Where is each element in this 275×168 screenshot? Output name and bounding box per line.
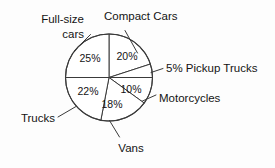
callout-label-motorcycles: Motorcycles: [159, 92, 221, 104]
leader-line-pickup-trucks: [151, 69, 163, 73]
leader-line-trucks: [58, 107, 76, 118]
pie-chart-canvas: 20% 10% 18% 22% 25% Full-size cars Compa…: [0, 0, 275, 168]
slice-value-trucks: 22%: [77, 85, 98, 97]
leader-line-vans: [110, 121, 120, 138]
callout-label-compact-cars: Compact Cars: [104, 10, 178, 22]
callout-label-full-size-cars-line2: cars: [62, 28, 84, 40]
slice-value-vans: 18%: [101, 98, 122, 110]
slice-value-compact-cars: 20%: [116, 50, 137, 62]
callout-label-trucks: Trucks: [21, 112, 55, 124]
callout-label-full-size-cars-line1: Full-size: [41, 13, 84, 25]
callout-label-vans: Vans: [118, 142, 144, 154]
callout-label-pickup-trucks: 5% Pickup Trucks: [166, 62, 258, 74]
slice-value-motorcycles: 10%: [120, 83, 141, 95]
pie-chart-figure: 20% 10% 18% 22% 25% Full-size cars Compa…: [0, 0, 275, 168]
slice-value-full-size-cars: 25%: [79, 52, 100, 64]
